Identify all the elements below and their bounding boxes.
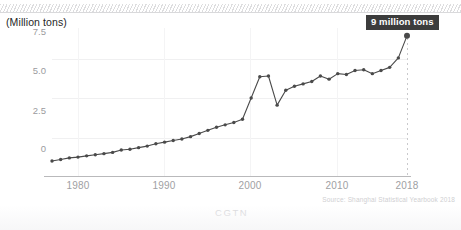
x-tick-label: 2010 (325, 180, 348, 191)
data-point-callout: 9 million tons (366, 15, 439, 30)
data-point (345, 73, 348, 76)
decorative-rule (0, 12, 461, 13)
source-attribution: Source: Shanghai Statistical Yearbook 20… (322, 196, 455, 203)
data-point (120, 148, 123, 151)
data-point (267, 74, 270, 77)
data-point (249, 96, 252, 99)
x-tick-label: 2018 (395, 180, 418, 191)
data-point (301, 82, 304, 85)
data-point (404, 33, 410, 39)
data-point (284, 88, 287, 91)
data-point (163, 140, 166, 143)
data-point (310, 80, 313, 83)
data-point (319, 74, 322, 77)
y-axis-tick-labels: 7.5 5.0 2.5 0 (24, 0, 46, 176)
decorative-hatch-band (0, 4, 461, 12)
data-point (59, 158, 62, 161)
data-point (137, 146, 140, 149)
x-tick-label: 1980 (66, 180, 89, 191)
data-point (327, 77, 330, 80)
data-point (241, 118, 244, 121)
data-point (198, 132, 201, 135)
x-axis-line (44, 176, 411, 177)
data-point (258, 75, 261, 78)
data-point (50, 159, 53, 162)
y-tick-label: 5.0 (33, 65, 46, 76)
data-point (180, 137, 183, 140)
plot-area (52, 28, 407, 176)
data-point (68, 156, 71, 159)
data-point (232, 121, 235, 124)
chart-root: (Million tons) 7.5 5.0 2.5 0 1980 1990 2… (0, 0, 461, 230)
bottom-fade (0, 205, 461, 230)
y-tick-label: 0 (41, 143, 46, 154)
data-point (128, 148, 131, 151)
x-tick-label: 1990 (152, 180, 175, 191)
data-point (215, 125, 218, 128)
data-point (94, 153, 97, 156)
data-point (336, 72, 339, 75)
x-tick-label: 2000 (238, 180, 261, 191)
data-point (275, 103, 278, 106)
data-point (353, 69, 356, 72)
data-point (223, 123, 226, 126)
line-series (52, 28, 407, 176)
data-point (154, 142, 157, 145)
data-point (397, 56, 400, 59)
data-point (76, 155, 79, 158)
data-point (102, 152, 105, 155)
data-point (388, 66, 391, 69)
reference-line-2018 (407, 28, 408, 176)
y-tick-label: 7.5 (33, 26, 46, 37)
data-point (293, 85, 296, 88)
data-point (206, 129, 209, 132)
data-point (362, 68, 365, 71)
data-point (111, 151, 114, 154)
data-point (189, 135, 192, 138)
data-point (85, 154, 88, 157)
data-point (172, 139, 175, 142)
data-point (379, 69, 382, 72)
y-tick-label: 2.5 (33, 105, 46, 116)
data-point (146, 144, 149, 147)
data-point (371, 72, 374, 75)
